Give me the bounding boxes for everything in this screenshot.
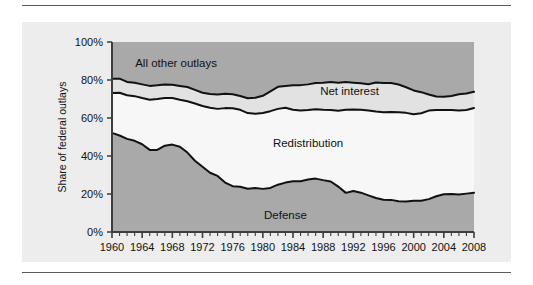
y-tick-label: 20% xyxy=(81,188,103,200)
x-tick-label: 1996 xyxy=(371,241,395,253)
y-tick-label: 100% xyxy=(75,36,103,48)
stacked-area-chart: 0%20%40%60%80%100%1960196419681972197619… xyxy=(22,22,511,262)
x-tick-label: 1976 xyxy=(220,241,244,253)
x-tick-label: 2008 xyxy=(462,241,486,253)
figure-root: 0%20%40%60%80%100%1960196419681972197619… xyxy=(0,0,533,285)
x-tick-label: 2000 xyxy=(401,241,425,253)
y-axis-title: Share of federal outlays xyxy=(56,82,68,193)
x-tick-label: 1988 xyxy=(311,241,335,253)
x-tick-label: 1984 xyxy=(281,241,305,253)
x-tick-label: 1968 xyxy=(160,241,184,253)
x-tick-label: 1992 xyxy=(341,241,365,253)
y-tick-label: 80% xyxy=(81,74,103,86)
figure-panel: 0%20%40%60%80%100%1960196419681972197619… xyxy=(22,22,511,262)
figure-bottom-rule xyxy=(22,272,511,273)
x-tick-label: 1960 xyxy=(100,241,124,253)
band-label-all-other-outlays: All other outlays xyxy=(135,57,217,69)
band-label-defense: Defense xyxy=(264,209,307,221)
x-tick-label: 2004 xyxy=(432,241,456,253)
band-label-redistribution: Redistribution xyxy=(273,137,343,149)
x-tick-label: 1964 xyxy=(130,241,154,253)
y-tick-label: 60% xyxy=(81,112,103,124)
y-tick-label: 40% xyxy=(81,150,103,162)
x-tick-label: 1972 xyxy=(190,241,214,253)
figure-top-rule xyxy=(22,5,511,6)
y-tick-label: 0% xyxy=(87,226,103,238)
x-tick-label: 1980 xyxy=(251,241,275,253)
band-label-net-interest: Net interest xyxy=(320,85,380,97)
